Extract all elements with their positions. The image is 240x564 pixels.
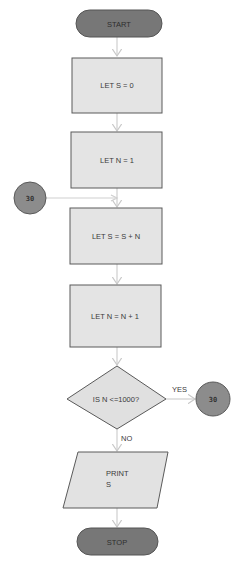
stop-label: STOP: [107, 538, 127, 547]
process-let-n-increment: LET N = N + 1: [70, 285, 161, 347]
stop-terminal: STOP: [77, 528, 158, 555]
process-let-s-sum: LET S = S + N: [70, 208, 162, 264]
connector-out-label: 30: [209, 396, 217, 404]
process-let-n-one: LET N = 1: [71, 132, 162, 188]
process-let-s-sum-label: LET S = S + N: [92, 232, 140, 241]
process-let-s-zero: LET S = 0: [72, 58, 162, 113]
io-print-s: PRINT S: [63, 452, 168, 508]
yes-label: YES: [172, 385, 187, 394]
connector-30-out: 30: [196, 382, 230, 416]
print-label-line2: S: [106, 480, 111, 489]
connector-in-label: 30: [26, 195, 34, 203]
connector-30-in: 30: [14, 182, 46, 214]
print-label-line1: PRINT: [106, 469, 129, 478]
process-let-n-increment-label: LET N = N + 1: [91, 312, 139, 321]
decision-n-le-1000: IS N <=1000?: [67, 366, 166, 429]
process-let-s-zero-label: LET S = 0: [100, 81, 133, 90]
flowchart: START LET S = 0 LET N = 1 30 LET S = S +…: [0, 0, 240, 564]
start-label: START: [107, 20, 131, 29]
process-let-n-one-label: LET N = 1: [100, 156, 134, 165]
start-terminal: START: [76, 10, 162, 37]
no-label: NO: [121, 434, 132, 443]
decision-label: IS N <=1000?: [93, 395, 139, 404]
